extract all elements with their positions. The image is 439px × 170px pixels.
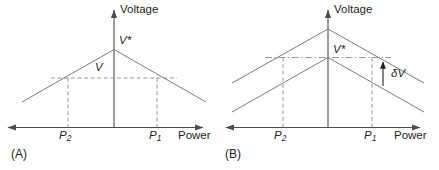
p2-base-b: P bbox=[274, 129, 282, 141]
p2-sub-a: 2 bbox=[67, 133, 72, 143]
panel-caption-b: (B) bbox=[225, 148, 241, 160]
x-axis-label-a: Power bbox=[178, 130, 211, 142]
p2-sub-b: 2 bbox=[282, 133, 287, 143]
panel-caption-a: (A) bbox=[11, 148, 27, 160]
v-star-text-a: V* bbox=[119, 34, 131, 46]
panel-a-drawing bbox=[0, 0, 219, 170]
p1-sub-b: 1 bbox=[372, 133, 377, 143]
p2-base-a: P bbox=[59, 129, 67, 141]
panel-b-drawing bbox=[219, 0, 438, 170]
figure-droop-characteristics: Voltage Power V* V P2 P1 (A) bbox=[0, 0, 439, 170]
v-star-label-a: V* bbox=[119, 35, 131, 47]
panel-a: Voltage Power V* V P2 P1 (A) bbox=[0, 0, 219, 170]
x-axis-label-b: Power bbox=[394, 130, 427, 142]
y-axis-label-a: Voltage bbox=[120, 4, 158, 16]
p1-label-a: P1 bbox=[149, 130, 161, 143]
p1-base-a: P bbox=[149, 129, 157, 141]
v-label-a: V bbox=[95, 62, 103, 74]
delta-v-label-b: δV bbox=[391, 68, 405, 80]
p1-label-b: P1 bbox=[364, 130, 376, 143]
p2-label-b: P2 bbox=[274, 130, 286, 143]
panel-b: Voltage Power V* δV P2 P1 (B) bbox=[219, 0, 438, 170]
p1-base-b: P bbox=[364, 129, 372, 141]
y-axis-label-b: Voltage bbox=[334, 4, 372, 16]
v-star-label-b: V* bbox=[333, 44, 345, 56]
p1-sub-a: 1 bbox=[157, 133, 162, 143]
p2-label-a: P2 bbox=[59, 130, 71, 143]
v-star-text-b: V* bbox=[333, 43, 345, 55]
